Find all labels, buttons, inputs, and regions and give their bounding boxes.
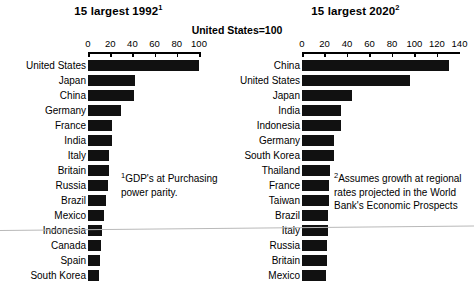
bar xyxy=(302,210,328,221)
bar-row: China xyxy=(0,89,237,104)
bar xyxy=(302,105,341,116)
footnote-2020: 2Assumes growth at regional rates projec… xyxy=(334,172,469,213)
bar xyxy=(88,75,135,86)
bar-row: Japan xyxy=(0,74,237,89)
bar xyxy=(302,165,330,176)
bar-category-label: China xyxy=(60,89,86,102)
bar xyxy=(88,165,109,176)
x-tick-label: 40 xyxy=(342,38,353,49)
bar-row: India xyxy=(237,104,474,119)
panel-title-2020-text: 15 largest 2020 xyxy=(311,5,395,17)
x-axis-tick xyxy=(437,52,439,57)
bar xyxy=(302,225,328,236)
bar-category-label: Germany xyxy=(45,104,86,117)
bar-category-label: Russia xyxy=(269,239,300,252)
bar xyxy=(88,270,99,281)
bar xyxy=(302,60,449,71)
bar-category-label: United States xyxy=(26,59,86,72)
x-axis-1992-ticklabels: 0 20 40 60 80 100 xyxy=(88,38,199,50)
x-tick-label: 40 xyxy=(127,38,138,49)
x-tick-label: 0 xyxy=(299,38,304,49)
bar-category-label: Taiwan xyxy=(269,194,300,207)
x-tick-label: 20 xyxy=(319,38,330,49)
bar xyxy=(302,255,327,266)
footnote-1992: 1GDP's at Purchasing power parity. xyxy=(121,172,231,199)
bar-row: France xyxy=(0,119,237,134)
x-tick-label: 120 xyxy=(429,38,445,49)
footnote-2020-text: Assumes growth at regional rates project… xyxy=(334,173,462,211)
bar-category-label: Brazil xyxy=(275,209,300,222)
bar xyxy=(88,180,108,191)
bar-category-label: South Korea xyxy=(244,149,300,162)
x-axis-tick xyxy=(414,52,416,57)
bar xyxy=(88,210,104,221)
bar-category-label: United States xyxy=(240,74,300,87)
x-axis-tick xyxy=(392,52,394,57)
x-axis-tick xyxy=(199,52,201,57)
bar-category-label: Spain xyxy=(60,254,86,267)
bar xyxy=(88,135,112,146)
bar-category-label: Brazil xyxy=(61,194,86,207)
x-tick-label: 0 xyxy=(85,38,90,49)
panel-title-1992-text: 15 largest 1992 xyxy=(74,5,158,17)
x-axis-line xyxy=(88,52,199,54)
bar xyxy=(88,120,112,131)
x-axis-2020: 0 20 40 60 80 100 120 140 xyxy=(302,38,460,60)
x-axis-tick xyxy=(369,52,371,57)
bar xyxy=(88,240,101,251)
bar-category-label: Indonesia xyxy=(43,224,86,237)
bar xyxy=(302,75,410,86)
bar xyxy=(88,195,106,206)
bar-category-label: Britain xyxy=(58,164,86,177)
bar-category-label: India xyxy=(64,134,86,147)
bar-row: United States xyxy=(237,74,474,89)
bar-row: Indonesia xyxy=(0,224,237,239)
bar xyxy=(88,60,199,71)
bar-row: Japan xyxy=(237,89,474,104)
x-axis-2020-ticklabels: 0 20 40 60 80 100 120 140 xyxy=(302,38,460,50)
bar-row: Germany xyxy=(237,134,474,149)
bar xyxy=(302,150,334,161)
x-tick-label: 80 xyxy=(387,38,398,49)
bar xyxy=(88,105,121,116)
panel-title-1992-superscript: 1 xyxy=(158,3,162,12)
bar-category-label: India xyxy=(278,104,300,117)
bar-row: Mexico xyxy=(0,209,237,224)
bar xyxy=(302,270,326,281)
bar-row: Italy xyxy=(237,224,474,239)
x-tick-label: 100 xyxy=(191,38,207,49)
x-tick-label: 20 xyxy=(105,38,116,49)
bar-row: Canada xyxy=(0,239,237,254)
bar-row: United States xyxy=(0,59,237,74)
panel-title-2020-superscript: 2 xyxy=(395,3,399,12)
x-axis-1992: 0 20 40 60 80 100 xyxy=(88,38,199,60)
bar xyxy=(302,90,352,101)
bar-category-label: Mexico xyxy=(54,209,86,222)
panel-title-2020: 15 largest 20202 xyxy=(237,5,474,17)
chart-subtitle: United States=100 xyxy=(0,24,474,36)
x-tick-label: 100 xyxy=(407,38,423,49)
bar-category-label: Italy xyxy=(282,224,300,237)
x-axis-tick xyxy=(177,52,179,57)
bar-category-label: Germany xyxy=(259,134,300,147)
x-axis-tick xyxy=(88,52,90,57)
x-axis-tick xyxy=(155,52,157,57)
bar-row: China xyxy=(237,59,474,74)
bar xyxy=(302,120,341,131)
bar-category-label: Japan xyxy=(273,89,300,102)
x-tick-label: 140 xyxy=(452,38,468,49)
x-tick-label: 60 xyxy=(149,38,160,49)
bar xyxy=(88,255,100,266)
panel-title-1992: 15 largest 19921 xyxy=(0,5,237,17)
bar-row: Indonesia xyxy=(237,119,474,134)
bar xyxy=(88,225,102,236)
bar-row: Germany xyxy=(0,104,237,119)
chart-panel-1992: 15 largest 19921 0 20 40 60 80 100 Unite… xyxy=(0,0,237,299)
bar xyxy=(88,150,109,161)
bar xyxy=(302,195,329,206)
x-axis-tick xyxy=(132,52,134,57)
bar-category-label: Italy xyxy=(68,149,86,162)
x-axis-tick xyxy=(347,52,349,57)
bar xyxy=(88,90,134,101)
bar-row: South Korea xyxy=(237,149,474,164)
